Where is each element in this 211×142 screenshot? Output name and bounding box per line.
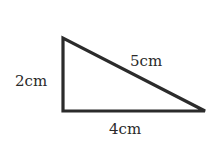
triangle-diagram: 2cm 5cm 4cm bbox=[0, 0, 211, 142]
vertical-side-label: 2cm bbox=[15, 72, 47, 90]
hypotenuse-label: 5cm bbox=[130, 52, 162, 70]
right-triangle bbox=[63, 38, 205, 111]
base-side-label: 4cm bbox=[109, 120, 141, 138]
